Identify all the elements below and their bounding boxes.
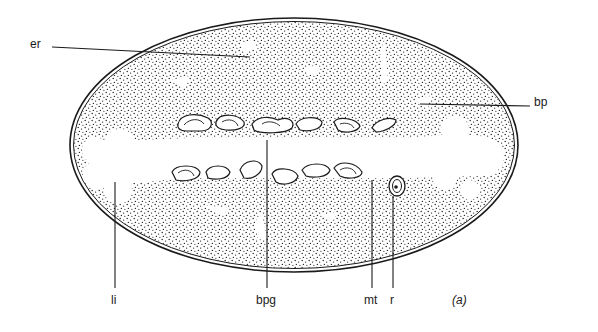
panel-label: (a) bbox=[452, 294, 467, 306]
label-r: r bbox=[390, 294, 394, 306]
label-mt: mt bbox=[364, 294, 377, 306]
label-li: li bbox=[111, 294, 116, 306]
label-er: er bbox=[30, 38, 41, 50]
r-structure bbox=[389, 176, 405, 196]
right-vacuole-2 bbox=[464, 146, 492, 174]
label-bpg: bpg bbox=[256, 294, 276, 306]
label-bp: bp bbox=[534, 96, 547, 108]
stippled-tissue bbox=[70, 18, 520, 278]
left-vacuole-3 bbox=[104, 129, 136, 161]
cross-section-diagram bbox=[0, 0, 598, 332]
right-vacuole-1 bbox=[441, 116, 469, 144]
left-vacuole-1 bbox=[82, 137, 108, 163]
